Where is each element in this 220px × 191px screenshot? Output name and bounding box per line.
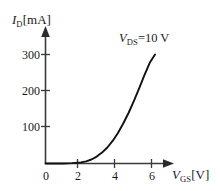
x-tick-label-0: 0	[36, 170, 56, 182]
series-annotation: VDS=10 V	[119, 32, 169, 45]
x-axis-label: VGS[V]	[172, 168, 209, 181]
y-axis-subscript: D	[16, 19, 22, 29]
x-axis-unit: [V]	[191, 167, 209, 182]
x-axis-symbol: V	[172, 167, 180, 182]
annotation-subscript: DS	[127, 37, 138, 47]
annotation-value: =10 V	[138, 31, 169, 45]
y-tick-label-100: 100	[10, 121, 40, 133]
data-series-curve	[46, 55, 156, 164]
x-tick-label-4: 4	[105, 170, 125, 182]
x-tick-label-6: 6	[142, 170, 162, 182]
annotation-symbol: V	[119, 31, 127, 45]
y-axis-label: ID[mA]	[12, 13, 51, 26]
y-axis-arrowhead	[41, 26, 50, 37]
y-tick-label-200: 200	[10, 85, 40, 97]
figure-container: ID[mA] VGS[V] VDS=10 V 300 200 100 0 2 4…	[0, 0, 220, 191]
x-tick-label-2: 2	[68, 170, 88, 182]
y-axis-unit: [mA]	[23, 12, 51, 27]
y-tick-label-300: 300	[10, 49, 40, 61]
x-axis-subscript: GS	[180, 174, 191, 184]
